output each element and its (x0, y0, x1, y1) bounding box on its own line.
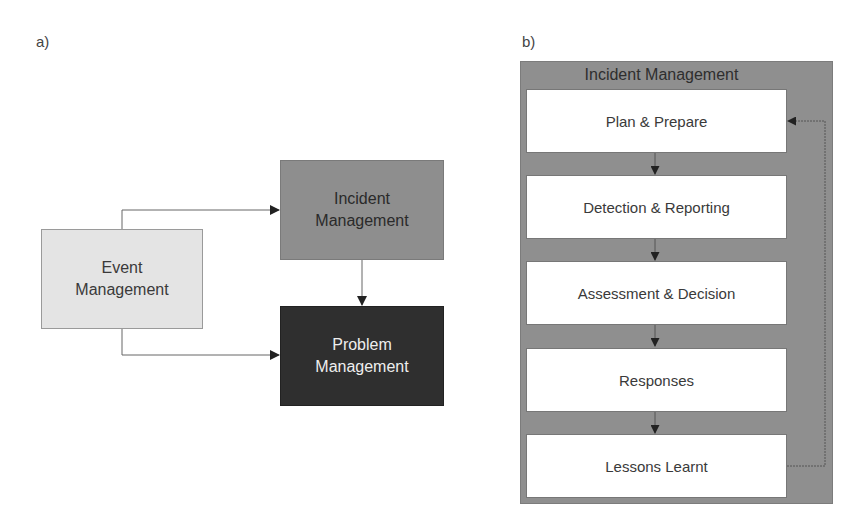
edge-feedback-lessons-to-plan (787, 121, 825, 466)
panel-b-connectors (0, 0, 857, 532)
